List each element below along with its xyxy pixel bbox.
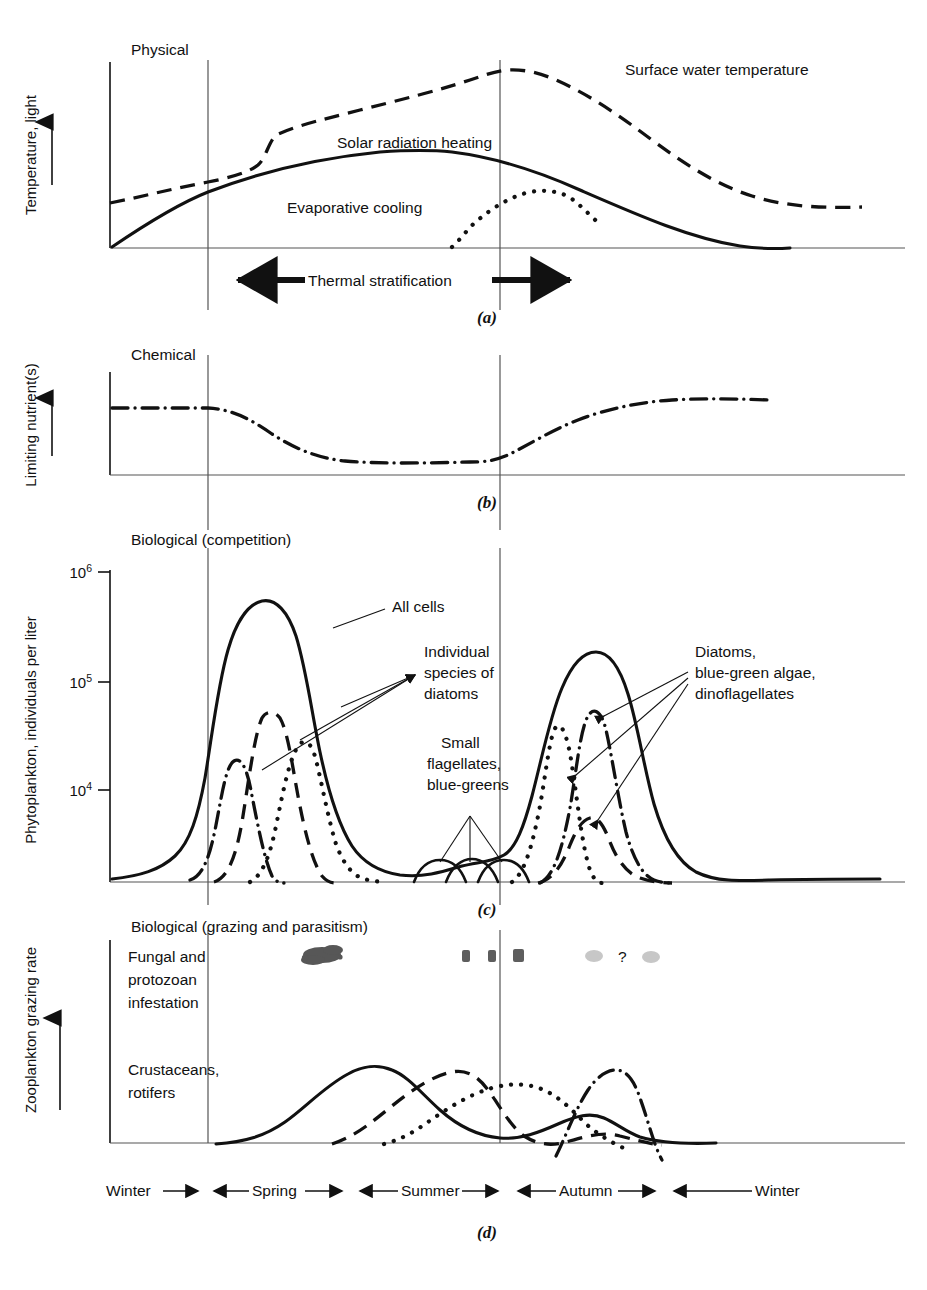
label-autumn-group-1: Diatoms, <box>695 643 756 660</box>
season-axis: Winter Spring Summer Autumn Winter <box>106 1182 800 1199</box>
panel-d-heading: Biological (grazing and parasitism) <box>131 918 368 935</box>
season-segment-winter-left: Winter <box>106 1182 198 1199</box>
label-infestation-3: infestation <box>128 994 199 1011</box>
leaders-autumn-group <box>576 672 688 820</box>
leaders-small-flagellates <box>440 816 502 862</box>
tick-label-1e4: 104 <box>69 780 92 799</box>
label-small-flagellates-1: Small <box>441 734 480 751</box>
leader-individual-1 <box>262 675 415 770</box>
label-evaporative-cooling: Evaporative cooling <box>287 199 422 216</box>
thermal-stratification-annotation: Thermal stratification <box>238 272 570 289</box>
panel-c-y-axis-label: Phytoplankton, individuals per liter <box>22 616 39 844</box>
infestation-marker-spring <box>301 945 343 965</box>
panel-d-y-axis-label: Zooplankton grazing rate <box>22 947 39 1113</box>
label-infestation-1: Fungal and <box>128 948 206 965</box>
panel-c-y-ticks: 106 105 104 <box>69 562 110 799</box>
infestation-markers: ? <box>301 945 660 965</box>
panel-b-y-axis-label: Limiting nutrient(s) <box>22 363 39 486</box>
season-segment-winter-right: Winter <box>674 1182 800 1199</box>
panel-a: Physical Temperature, light Surface wate… <box>22 41 905 327</box>
label-small-flagellates-2: flagellates, <box>427 755 501 772</box>
label-small-flagellates-3: blue-greens <box>427 776 509 793</box>
panel-a-y-axis-label: Temperature, light <box>22 94 39 215</box>
panel-b-heading: Chemical <box>131 346 196 363</box>
figure-root: Physical Temperature, light Surface wate… <box>0 0 927 1290</box>
season-label-spring: Spring <box>252 1182 297 1199</box>
panel-a-heading: Physical <box>131 41 189 58</box>
thermal-stratification-label: Thermal stratification <box>308 272 452 289</box>
curve-grazers-dashed <box>332 1071 662 1145</box>
label-grazers-1: Crustaceans, <box>128 1061 219 1078</box>
infestation-question-mark: ? <box>618 948 627 965</box>
seasonal-succession-figure: Physical Temperature, light Surface wate… <box>0 0 927 1290</box>
tick-label-1e5: 105 <box>69 672 92 691</box>
leader-autumn-1 <box>604 672 688 716</box>
leader-individual-3 <box>341 675 415 707</box>
leader-flagellate-3 <box>470 816 502 862</box>
label-surface-water-temperature: Surface water temperature <box>625 61 809 78</box>
leader-autumn-3 <box>598 684 688 820</box>
leader-autumn-2 <box>576 678 688 775</box>
leaders-individual-species <box>262 675 415 770</box>
panel-b: Chemical Limiting nutrient(s) (b) <box>22 346 905 512</box>
season-segment-summer: Summer <box>360 1182 498 1199</box>
season-segment-spring: Spring <box>214 1182 342 1199</box>
label-solar-radiation-heating: Solar radiation heating <box>337 134 492 151</box>
panel-d-id: (d) <box>477 1223 497 1242</box>
season-label-winter-left: Winter <box>106 1182 151 1199</box>
label-individual-species-1: Individual <box>424 643 490 660</box>
panel-c-heading: Biological (competition) <box>131 531 291 548</box>
panel-a-id: (a) <box>477 308 497 327</box>
season-divider-lines <box>208 60 500 1143</box>
curve-grazers-dashdot <box>556 1070 662 1160</box>
label-grazers-2: rotifers <box>128 1084 176 1101</box>
label-infestation-2: protozoan <box>128 971 197 988</box>
tick-label-1e6: 106 <box>69 562 92 581</box>
panel-c: Biological (competition) Phytoplankton, … <box>22 531 905 919</box>
label-autumn-group-3: dinoflagellates <box>695 685 794 702</box>
panel-c-id: (c) <box>478 900 497 919</box>
panel-b-id: (b) <box>477 493 497 512</box>
label-all-cells: All cells <box>392 598 445 615</box>
label-individual-species-3: diatoms <box>424 685 479 702</box>
season-label-summer: Summer <box>401 1182 460 1199</box>
label-individual-species-2: species of <box>424 664 494 681</box>
season-segment-autumn: Autumn <box>518 1182 655 1199</box>
leader-all-cells <box>333 609 385 628</box>
curve-autumn-bluegreen-algae <box>540 711 674 883</box>
curve-evaporative-cooling <box>452 191 600 247</box>
infestation-marker-summer <box>462 949 524 962</box>
curve-autumn-dinoflagellates <box>538 818 672 883</box>
leader-individual-2 <box>300 675 415 740</box>
curve-all-cells <box>112 601 880 881</box>
season-label-winter-right: Winter <box>755 1182 800 1199</box>
curve-limiting-nutrients <box>112 399 770 463</box>
leader-flagellate-1 <box>440 816 470 862</box>
label-autumn-group-2: blue-green algae, <box>695 664 816 681</box>
season-label-autumn: Autumn <box>559 1182 612 1199</box>
